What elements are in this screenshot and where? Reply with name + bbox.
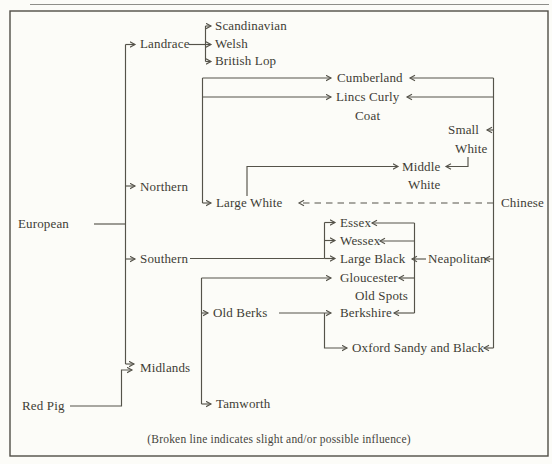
node-middle-white-line1: Middle (402, 159, 440, 174)
edge-redpig-to-midlands (70, 370, 132, 406)
node-scandinavian: Scandinavian (215, 18, 287, 33)
node-midlands: Midlands (140, 360, 190, 375)
node-large-black: Large Black (340, 251, 405, 266)
node-neapolitan: Neapolitan (428, 251, 487, 266)
node-small-white-line2: White (455, 141, 488, 156)
node-chinese: Chinese (501, 195, 544, 210)
node-red-pig: Red Pig (22, 398, 65, 413)
node-middle-white-line2: White (408, 177, 441, 192)
edge-smallwhite-to-middlewhite (446, 157, 468, 167)
node-lincs-curly-coat-line1: Lincs Curly (336, 89, 399, 104)
node-large-white: Large White (216, 195, 283, 210)
pig-breed-genealogy-diagram: European Red Pig Landrace Scandinavian W… (0, 0, 552, 464)
node-small-white-line1: Small (448, 122, 479, 137)
node-essex: Essex (340, 215, 371, 230)
node-northern: Northern (140, 179, 188, 194)
node-lincs-curly-coat-line2: Coat (355, 108, 380, 123)
node-gloucester-old-spots-line1: Gloucester (340, 270, 398, 285)
node-oxford-sandy-and-black: Oxford Sandy and Black (352, 340, 484, 355)
node-old-berks: Old Berks (213, 305, 267, 320)
node-european: European (18, 216, 69, 231)
node-british-lop: British Lop (215, 53, 276, 68)
node-tamworth: Tamworth (216, 396, 270, 411)
edge-largewhite-to-middlewhite (247, 167, 398, 197)
node-berkshire: Berkshire (340, 305, 392, 320)
node-welsh: Welsh (215, 36, 248, 51)
node-wessex: Wessex (340, 233, 380, 248)
diagram-connector-lines (0, 0, 552, 464)
node-landrace: Landrace (140, 36, 190, 51)
node-southern: Southern (140, 251, 188, 266)
diagram-caption: (Broken line indicates slight and/or pos… (10, 433, 548, 445)
node-gloucester-old-spots-line2: Old Spots (355, 288, 408, 303)
node-cumberland: Cumberland (337, 70, 403, 85)
